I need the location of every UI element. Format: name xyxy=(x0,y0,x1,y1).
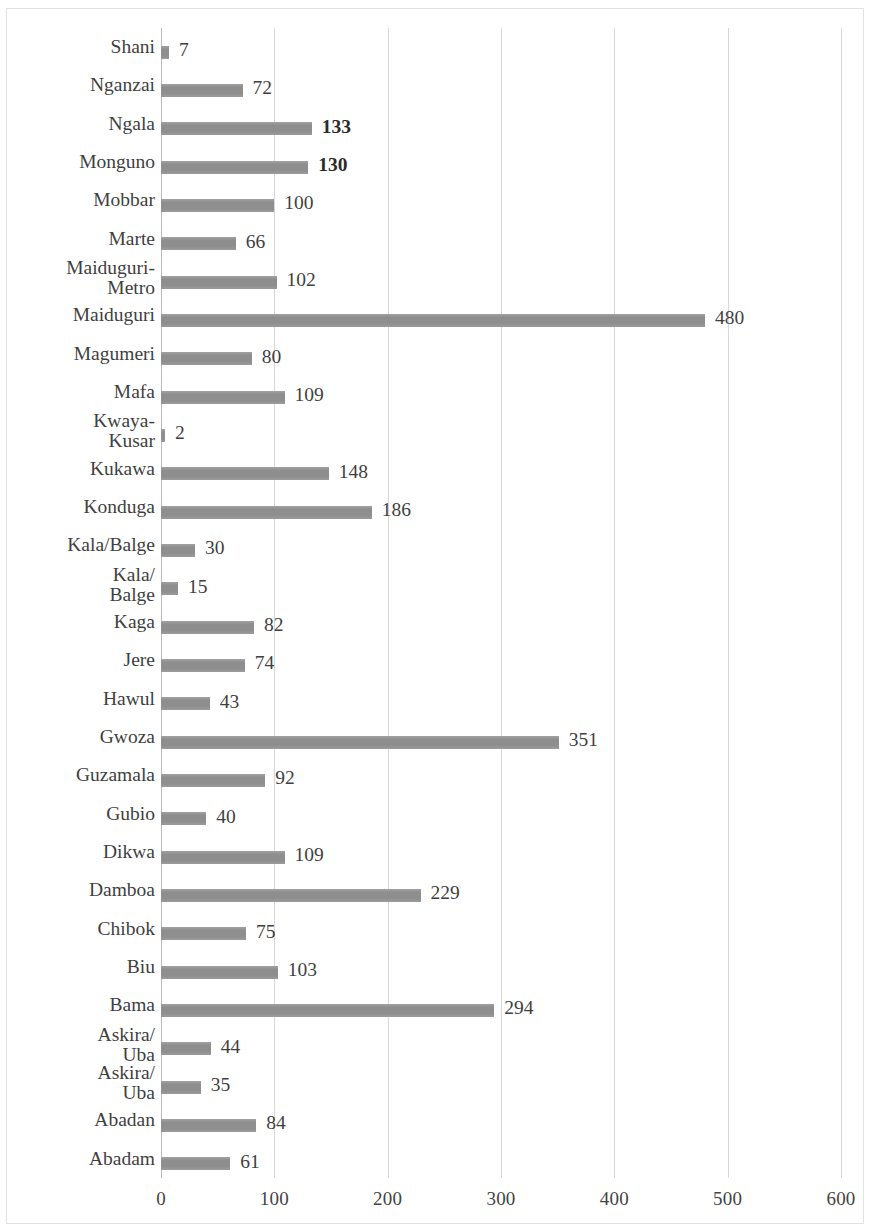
bar-row: Mobbar100 xyxy=(0,181,874,219)
bar xyxy=(161,237,236,250)
x-axis-tick-label: 100 xyxy=(260,1188,289,1210)
chart-page: 0100200300400500600Shani7Nganzai72Ngala1… xyxy=(0,0,874,1232)
bar-row: Guzamala92 xyxy=(0,756,874,794)
bar-row: Hawul43 xyxy=(0,680,874,718)
bar-value-label: 103 xyxy=(288,959,317,981)
bar xyxy=(161,544,195,557)
bar-row: Kukawa148 xyxy=(0,450,874,488)
bar xyxy=(161,1119,256,1132)
bar-row: Askira/ Uba44 xyxy=(0,1025,874,1063)
category-label: Monguno xyxy=(0,152,155,172)
bar-value-label: 74 xyxy=(255,652,275,674)
category-label: Kukawa xyxy=(0,459,155,479)
bar-value-label: 480 xyxy=(715,307,744,329)
bar-value-label: 109 xyxy=(295,844,324,866)
x-axis-tick-label: 600 xyxy=(826,1188,855,1210)
horizontal-bar-chart: 0100200300400500600Shani7Nganzai72Ngala1… xyxy=(0,0,874,1232)
category-label: Kala/ Balge xyxy=(0,565,155,605)
bar-value-label: 44 xyxy=(221,1036,241,1058)
bar-row: Askira/ Uba35 xyxy=(0,1063,874,1101)
bar-value-label: 92 xyxy=(275,767,295,789)
bar xyxy=(161,812,206,825)
bar-row: Marte66 xyxy=(0,220,874,258)
category-label: Shani xyxy=(0,37,155,57)
bar-value-label: 30 xyxy=(205,537,225,559)
bar-row: Monguno130 xyxy=(0,143,874,181)
category-label: Jere xyxy=(0,650,155,670)
bar xyxy=(161,122,312,135)
x-axis-tick-label: 500 xyxy=(713,1188,742,1210)
bar xyxy=(161,966,278,979)
bar xyxy=(161,161,308,174)
bar-row: Kala/ Balge15 xyxy=(0,565,874,603)
bar-row: Bama294 xyxy=(0,986,874,1024)
bar-value-label: 43 xyxy=(220,691,240,713)
bar-row: Kala/Balge30 xyxy=(0,526,874,564)
bar-row: Nganzai72 xyxy=(0,66,874,104)
bar-value-label: 84 xyxy=(266,1112,286,1134)
bar xyxy=(161,84,243,97)
category-label: Ngala xyxy=(0,114,155,134)
bar-row: Jere74 xyxy=(0,641,874,679)
category-label: Damboa xyxy=(0,880,155,900)
bar xyxy=(161,1004,494,1017)
category-label: Marte xyxy=(0,229,155,249)
bar xyxy=(161,46,169,59)
bar-value-label: 15 xyxy=(188,576,208,598)
category-label: Abadan xyxy=(0,1110,155,1130)
bar-value-label: 186 xyxy=(382,499,411,521)
bar-row: Maiduguri- Metro102 xyxy=(0,258,874,296)
bar-value-label: 229 xyxy=(431,882,460,904)
category-label: Mafa xyxy=(0,382,155,402)
bar xyxy=(161,199,274,212)
bar-value-label: 148 xyxy=(339,461,368,483)
bar-row: Maiduguri480 xyxy=(0,296,874,334)
bar xyxy=(161,659,245,672)
bar xyxy=(161,927,246,940)
category-label: Chibok xyxy=(0,919,155,939)
bar-row: Chibok75 xyxy=(0,910,874,948)
bar-row: Damboa229 xyxy=(0,871,874,909)
category-label: Kwaya- Kusar xyxy=(0,411,155,451)
category-label: Nganzai xyxy=(0,75,155,95)
bar xyxy=(161,429,165,442)
bar-value-label: 109 xyxy=(295,384,324,406)
bar xyxy=(161,1157,230,1170)
bar-value-label: 102 xyxy=(287,269,316,291)
category-label: Magumeri xyxy=(0,344,155,364)
bar xyxy=(161,314,705,327)
bar-row: Kwaya- Kusar2 xyxy=(0,411,874,449)
category-label: Gwoza xyxy=(0,727,155,747)
category-label: Mobbar xyxy=(0,190,155,210)
bar-value-label: 75 xyxy=(256,921,276,943)
category-label: Guzamala xyxy=(0,765,155,785)
bar-value-label: 2 xyxy=(175,422,185,444)
bar-value-label: 294 xyxy=(504,997,533,1019)
bar-value-label: 130 xyxy=(318,154,347,176)
bar xyxy=(161,736,559,749)
bar xyxy=(161,391,285,404)
bar-row: Gubio40 xyxy=(0,795,874,833)
category-label: Maiduguri- Metro xyxy=(0,258,155,298)
bar xyxy=(161,582,178,595)
category-label: Gubio xyxy=(0,804,155,824)
bar-row: Magumeri80 xyxy=(0,335,874,373)
bar xyxy=(161,774,265,787)
bar-value-label: 61 xyxy=(240,1151,260,1173)
bar-value-label: 40 xyxy=(216,806,236,828)
bar xyxy=(161,467,329,480)
bar-row: Konduga186 xyxy=(0,488,874,526)
category-label: Dikwa xyxy=(0,842,155,862)
category-label: Kaga xyxy=(0,612,155,632)
bar xyxy=(161,276,277,289)
bar-value-label: 72 xyxy=(253,77,273,99)
bar-value-label: 66 xyxy=(246,231,266,253)
bar-value-label: 7 xyxy=(179,39,189,61)
bar-value-label: 82 xyxy=(264,614,284,636)
bar-row: Abadam61 xyxy=(0,1140,874,1178)
x-axis-tick-label: 0 xyxy=(156,1188,166,1210)
bar-value-label: 100 xyxy=(284,192,313,214)
category-label: Biu xyxy=(0,957,155,977)
category-label: Konduga xyxy=(0,497,155,517)
bar-row: Abadan84 xyxy=(0,1101,874,1139)
